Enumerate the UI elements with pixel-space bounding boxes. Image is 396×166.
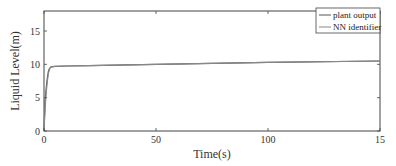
x-tick-label: 50: [151, 134, 161, 145]
x-axis-label: Time(s): [193, 147, 231, 161]
x-tick-label: 100: [261, 134, 276, 145]
legend-label-plant-output: plant output: [333, 10, 377, 20]
y-axis-label: Liquid Level(m): [8, 31, 22, 111]
y-tick-label: 0: [35, 126, 40, 137]
y-tick-label: 5: [35, 92, 40, 103]
legend-label-nn-identifier: NN identifier: [333, 22, 381, 32]
y-tick-label: 15: [30, 26, 40, 37]
legend: plant output NN identifier: [316, 8, 381, 33]
y-tick-label: 10: [30, 59, 40, 70]
x-tick-label: 0: [42, 134, 47, 145]
x-tick-label: 15: [375, 134, 385, 145]
line-chart: 05010015051015 Time(s) Liquid Level(m) p…: [0, 0, 396, 166]
